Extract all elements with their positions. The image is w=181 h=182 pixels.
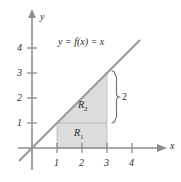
x-axis-label: x: [170, 141, 174, 151]
y-tick-label-4: 4: [17, 43, 22, 53]
brace-value-label: 2: [122, 92, 127, 102]
measurement-brace: [112, 71, 120, 123]
x-tick-label-4: 4: [129, 158, 134, 168]
y-axis-label: y: [40, 12, 44, 22]
y-tick-label-3: 3: [17, 68, 22, 78]
y-tick-label-1: 1: [17, 118, 22, 128]
region-r1-label: R1: [74, 128, 84, 141]
figure-canvas: [0, 0, 181, 182]
math-figure: y x 1 2 3 4 1 2 3 4 y = f(x) = x R1 R2 2: [0, 0, 181, 182]
region-r2-subscript: 2: [84, 105, 88, 113]
x-tick-label-3: 3: [104, 158, 109, 168]
x-tick-label-1: 1: [54, 158, 59, 168]
region-r2-label: R2: [78, 100, 88, 113]
y-axis-arrowhead: [28, 9, 36, 18]
region-r1-subscript: 1: [80, 133, 84, 141]
x-tick-label-2: 2: [79, 158, 84, 168]
x-axis-arrowhead: [157, 144, 167, 152]
function-label: y = f(x) = x: [58, 37, 104, 47]
y-tick-label-2: 2: [17, 93, 22, 103]
